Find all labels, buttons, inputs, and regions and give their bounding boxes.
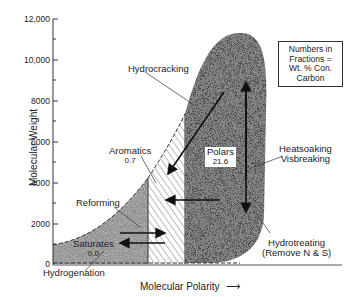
aromatics-region <box>148 114 185 264</box>
legend-box: Numbers in Fractions = Wt. % Con. Carbon <box>278 41 343 87</box>
hydrocracking-label: Hydrocracking <box>128 64 189 74</box>
hydrotreating-label-group: Hydrotreating (Remove N & S) <box>262 238 331 258</box>
y-tick-12000: 12,000 <box>4 14 50 24</box>
hydrotreating-note: (Remove N & S) <box>262 248 331 258</box>
y-tick-10000: 10,000 <box>4 55 50 65</box>
aromatics-name: Aromatics <box>109 146 151 156</box>
polars-name: Polars <box>205 147 236 157</box>
saturates-value: 0.0 <box>73 249 114 259</box>
visbreaking-label: Visbreaking <box>279 154 332 164</box>
legend-line-4: Carbon <box>279 74 342 84</box>
polars-value: 21.6 <box>205 157 236 167</box>
y-axis-label: Molecular Weight <box>28 103 39 193</box>
reforming-label: Reforming <box>76 198 120 208</box>
saturates-label: Saturates 0.0 <box>73 239 114 259</box>
saturates-name: Saturates <box>73 239 114 249</box>
x-axis-label: Molecular Polarity ⟶ <box>140 282 240 292</box>
heatsoaking-visbreaking-label: Heatsoaking Visbreaking <box>279 144 332 164</box>
aromatics-value: 0.7 <box>109 156 151 166</box>
x-axis-label-text: Molecular Polarity <box>140 281 219 292</box>
polars-label: Polars 21.6 <box>205 147 236 167</box>
hydrogenation-label: Hydrogenation <box>43 268 105 278</box>
y-tick-2000: 2000 <box>4 219 50 229</box>
aromatics-label: Aromatics 0.7 <box>109 146 151 166</box>
x-axis-arrow-icon: ⟶ <box>226 281 240 292</box>
